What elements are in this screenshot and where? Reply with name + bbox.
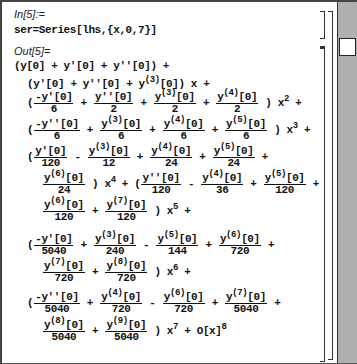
operator: ) x3 + — [274, 124, 310, 136]
denominator: 24 — [150, 158, 192, 169]
denominator: 720 — [100, 304, 142, 315]
fraction: y(7)[0]120 — [105, 200, 147, 223]
fraction: y(3)[0]240 — [94, 234, 136, 257]
denominator: 5040 — [34, 246, 73, 257]
output-term-x7a: (-y''[0]5040 + y(4)[0]720 - y(6)[0]720 +… — [27, 292, 280, 315]
operator: ) x4 + ( — [92, 178, 140, 190]
output-term-x7b: y(8)[0]5040 + y(9)[0]5040 ) x7 + O[x]8 — [42, 320, 227, 343]
group-cell-bracket[interactable] — [328, 11, 333, 360]
input-cell-bracket[interactable] — [320, 11, 325, 39]
fraction: y(4)[0]6 — [163, 119, 205, 142]
operator: ) x7 + O[x]8 — [154, 325, 226, 337]
fraction: y(5)[0]6 — [225, 119, 267, 142]
denominator: 24 — [213, 158, 255, 169]
denominator: 6 — [225, 131, 267, 142]
denominator: 120 — [34, 158, 67, 169]
operator: + — [313, 178, 319, 190]
denominator: 720 — [219, 246, 261, 257]
denominator: 720 — [105, 273, 147, 284]
fraction: -y''[0]5040 — [34, 292, 79, 315]
output-label: Out[5]= — [14, 45, 50, 57]
denominator: 5040 — [34, 304, 79, 315]
denominator: 144 — [156, 246, 198, 257]
denominator: 5040 — [105, 332, 147, 343]
denominator: 24 — [43, 185, 85, 196]
fraction: y(6)[0]24 — [43, 173, 85, 196]
operator: + — [262, 151, 268, 163]
operator: ) x2 + — [265, 97, 301, 109]
output-line-0: (y[0] + y'[0] + y''[0]) + — [14, 60, 169, 72]
denominator: 120 — [105, 212, 147, 223]
output-term-x3: (-y''[0]6 + y(3)[0]6 + y(4)[0]6 + y(5)[0… — [27, 119, 310, 142]
denominator: 2 — [216, 104, 258, 115]
output-term-x2: (-y'[0]6 + y''[0]2 + y(3)[0]2 + y(4)[0]2… — [27, 92, 301, 115]
denominator: 2 — [154, 104, 196, 115]
output-term-x4a: (y'[0]120 - y(3)[0]12 + y(4)[0]24 + y(5)… — [27, 146, 268, 169]
fraction: y(6)[0]120 — [43, 200, 85, 223]
fraction: y(6)[0]720 — [163, 292, 205, 315]
output-cell-bracket[interactable] — [320, 46, 325, 362]
fraction: y(4)[0]2 — [216, 92, 258, 115]
denominator: 2 — [94, 104, 133, 115]
scrollbar-thumb[interactable] — [339, 38, 356, 56]
operator: + — [268, 239, 274, 251]
fraction: -y'[0]6 — [34, 92, 73, 115]
denominator: 120 — [141, 185, 180, 196]
operator: ) x5 + — [154, 205, 190, 217]
fraction: y(7)[0]720 — [43, 261, 85, 284]
denominator: 120 — [264, 185, 306, 196]
fraction: y(3)[0]6 — [100, 119, 142, 142]
operator: ) x6 + — [154, 266, 190, 278]
fraction: y(3)[0]12 — [88, 146, 130, 169]
fraction: y(4)[0]24 — [150, 146, 192, 169]
output-term-x6b: y(7)[0]720 + y(8)[0]720 ) x6 + — [42, 261, 191, 284]
operator: + — [274, 297, 280, 309]
fraction: y(9)[0]5040 — [105, 320, 147, 343]
fraction: y''[0]2 — [94, 92, 133, 115]
fraction: y(6)[0]720 — [219, 234, 261, 257]
fraction: y(4)[0]36 — [201, 173, 243, 196]
notebook-window: In[5]:= ser=Series[lhs,{x,0,7}] Out[5]= … — [0, 0, 357, 364]
denominator: 6 — [34, 131, 79, 142]
fraction: y(8)[0]5040 — [43, 320, 85, 343]
output-term-x4b: y(6)[0]24 ) x4 + (y''[0]120 - y(4)[0]36 … — [42, 173, 319, 196]
fraction: y(4)[0]720 — [100, 292, 142, 315]
denominator: 36 — [201, 185, 243, 196]
fraction: y(5)[0]120 — [264, 173, 306, 196]
fraction: y''[0]120 — [141, 173, 180, 196]
denominator: 240 — [94, 246, 136, 257]
denominator: 720 — [163, 304, 205, 315]
input-label: In[5]:= — [14, 8, 45, 20]
vertical-scrollbar[interactable] — [337, 2, 357, 363]
notebook-content: In[5]:= ser=Series[lhs,{x,0,7}] Out[5]= … — [11, 2, 301, 363]
denominator: 6 — [34, 104, 73, 115]
denominator: 5040 — [43, 332, 85, 343]
denominator: 5040 — [225, 304, 267, 315]
fraction: y(8)[0]720 — [105, 261, 147, 284]
fraction: y(5)[0]24 — [213, 146, 255, 169]
output-line-1: (y'[0] + y''[0] + y(3)[0]) x + — [27, 78, 209, 90]
fraction: y(3)[0]2 — [154, 92, 196, 115]
denominator: 120 — [43, 212, 85, 223]
fraction: -y''[0]6 — [34, 119, 79, 142]
output-term-x6a: (-y'[0]5040 + y(3)[0]240 - y(5)[0]144 + … — [27, 234, 274, 257]
denominator: 6 — [100, 131, 142, 142]
fraction: -y'[0]5040 — [34, 234, 73, 257]
fraction: y(5)[0]144 — [156, 234, 198, 257]
input-code[interactable]: ser=Series[lhs,{x,0,7}] — [14, 24, 157, 36]
denominator: 6 — [163, 131, 205, 142]
denominator: 720 — [43, 273, 85, 284]
denominator: 12 — [88, 158, 130, 169]
output-term-x5b: y(6)[0]120 + y(7)[0]120 ) x5 + — [42, 200, 191, 223]
fraction: y(7)[0]5040 — [225, 292, 267, 315]
fraction: y'[0]120 — [34, 146, 67, 169]
